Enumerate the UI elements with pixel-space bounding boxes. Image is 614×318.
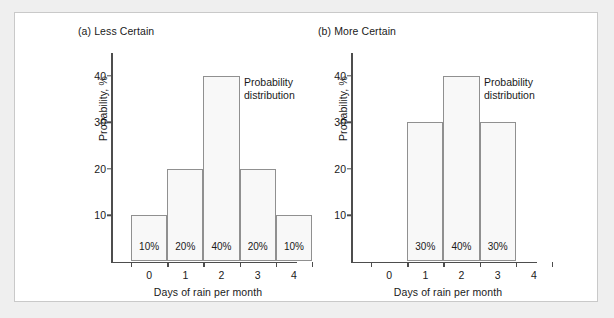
chart-b-ytick-mark-20 (347, 168, 351, 169)
chart-b-xtick-1: 1 (422, 269, 428, 281)
chart-a-xtick-mark-3 (240, 262, 241, 267)
chart-b-annotation-line2: distribution (484, 89, 535, 102)
chart-more-certain: (b) More Certain Probability, % 10 20 30… (255, 13, 547, 301)
chart-b-xtick-4: 4 (531, 269, 537, 281)
chart-a-title: (a) Less Certain (78, 25, 154, 37)
chart-a-ytick-mark-30 (107, 122, 111, 123)
chart-b-x-axis-label: Days of rain per month (394, 286, 502, 298)
chart-a-y-axis (111, 53, 113, 263)
chart-a-y-axis-label: Probability, % (97, 76, 109, 141)
chart-b-y-axis (351, 53, 353, 263)
chart-a-bar-1: 20% (167, 169, 203, 262)
chart-b-bar-1: 30% (407, 122, 443, 261)
chart-b-bar-2: 40% (443, 76, 479, 262)
chart-a-bar-0: 10% (131, 215, 167, 261)
chart-b-annotation-line1: Probability (484, 76, 535, 89)
chart-a-ytick-mark-10 (107, 214, 111, 215)
chart-b-xtick-mark-4 (516, 262, 517, 267)
chart-b-ytick-mark-30 (347, 122, 351, 123)
chart-a-xtick-mark-2 (203, 262, 204, 267)
chart-b-ytick-mark-10 (347, 214, 351, 215)
chart-a-ytick-mark-20 (107, 168, 111, 169)
chart-b-xtick-mark-0 (371, 262, 372, 267)
chart-a-xtick-1: 1 (182, 269, 188, 281)
chart-a-xtick-mark-0 (131, 262, 132, 267)
chart-a-x-axis-label: Days of rain per month (154, 286, 262, 298)
chart-b-ytick-mark-40 (347, 75, 351, 76)
chart-b-y-axis-label: Probability, % (337, 76, 349, 141)
chart-b-annotation: Probability distribution (484, 76, 535, 101)
chart-b-xtick-2: 2 (459, 269, 465, 281)
chart-a-xtick-mark-1 (167, 262, 168, 267)
chart-a-ytick-mark-40 (107, 75, 111, 76)
chart-b-xtick-mark-1 (407, 262, 408, 267)
chart-b-xtick-0: 0 (386, 269, 392, 281)
chart-a-xtick-0: 0 (146, 269, 152, 281)
chart-b-xtick-mark-3 (480, 262, 481, 267)
figure-panel: (a) Less Certain Probability, % 10 20 30… (14, 12, 598, 302)
chart-b-bar-3: 30% (480, 122, 516, 261)
chart-b-title: (b) More Certain (318, 25, 396, 37)
chart-a-bar-2: 40% (203, 76, 239, 262)
chart-b-xtick-mark-end (552, 262, 553, 267)
chart-b-xtick-3: 3 (495, 269, 501, 281)
chart-b-xtick-mark-2 (443, 262, 444, 267)
chart-a-xtick-2: 2 (219, 269, 225, 281)
